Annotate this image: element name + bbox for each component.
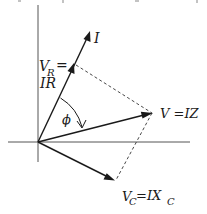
- phi-label: ϕ: [62, 112, 71, 127]
- cropped-text-remnants: [18, 0, 198, 3]
- phasor-diagram: I V R = IR ϕ V =IZ V C =IX C: [0, 0, 207, 214]
- vr-label-eq: =: [56, 57, 68, 73]
- vr-label: V R = IR: [39, 57, 68, 91]
- current-arrowhead-icon: [84, 31, 91, 42]
- vr-arrowhead-icon: [68, 63, 75, 74]
- voltage-vector: [38, 114, 148, 142]
- vc-label-eq-sub: C: [167, 196, 175, 207]
- dashed-v-to-vc: [116, 113, 152, 180]
- vc-label: V C =IX C: [122, 188, 175, 207]
- vc-vector: [38, 142, 110, 178]
- vc-label-eq: =IX: [136, 188, 162, 203]
- dashed-vr-to-v: [76, 65, 152, 113]
- vc-arrowhead-icon: [104, 173, 116, 180]
- vr-label-value: IR: [39, 75, 57, 91]
- current-label: I: [93, 30, 100, 46]
- voltage-label: V =IZ: [160, 106, 200, 121]
